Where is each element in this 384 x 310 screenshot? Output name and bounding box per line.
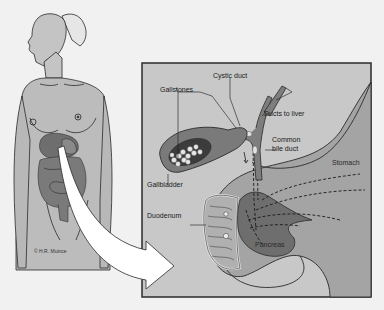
label-stomach: Stomach [332,159,360,167]
label-gallbladder: Gallbladder [147,181,183,189]
label-cystic-duct: Cystic duct [213,72,247,80]
label-duodenum: Duodenum [147,212,181,220]
copyright-credit: © H.R. Muince [34,248,67,254]
label-pancreas: Pancreas [255,241,285,249]
detail-panel [142,63,371,297]
label-gallstones: Gallstones [160,86,193,94]
label-common-bile-duct-2: bile duct [272,145,298,153]
label-ducts-to-liver: Ducts to liver [264,110,304,118]
anatomy-illustration [0,0,384,310]
label-common-bile-duct-1: Common [272,136,300,144]
